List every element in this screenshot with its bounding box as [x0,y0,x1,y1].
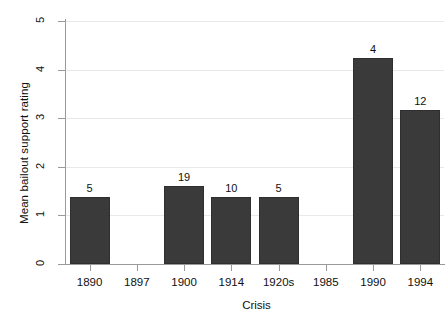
plot-area: 519105412 [66,16,444,264]
x-axis-tick [184,265,185,271]
y-axis-tick [58,21,65,22]
y-axis-tick-label: 5 [34,8,46,32]
bar[interactable] [70,197,110,264]
bar[interactable] [400,110,440,264]
bar-value-label: 5 [67,182,113,194]
bar[interactable] [211,197,251,264]
y-axis-tick [58,264,65,265]
bar-value-label: 19 [161,171,207,183]
x-axis-tick [279,265,280,271]
y-axis-tick-label: 2 [34,154,46,178]
y-axis-tick [58,118,65,119]
x-axis-tick [231,265,232,271]
y-axis-tick-label: 3 [34,105,46,129]
y-axis-tick-label: 0 [34,251,46,275]
y-axis-tick [58,215,65,216]
gridline [66,21,444,22]
x-axis-tick-label: 1994 [390,276,447,288]
bar-chart: Mean bailout support rating 519105412 01… [0,0,447,327]
bar-value-label: 12 [397,95,443,107]
x-axis-tick [326,265,327,271]
bar-value-label: 5 [256,182,302,194]
bar-value-label: 10 [208,182,254,194]
y-axis-tick [58,167,65,168]
x-axis-tick [420,265,421,271]
bar[interactable] [353,58,393,264]
y-axis-tick [58,70,65,71]
x-axis-tick [90,265,91,271]
bar[interactable] [259,197,299,264]
bar-value-label: 4 [350,43,396,55]
x-axis-tick [137,265,138,271]
y-axis-tick-label: 4 [34,57,46,81]
y-axis-tick-label: 1 [34,202,46,226]
y-axis-title: Mean bailout support rating [13,21,35,285]
x-axis-tick [373,265,374,271]
x-axis-line [60,264,445,265]
bar[interactable] [164,186,204,264]
x-axis-title: Crisis [66,299,447,311]
